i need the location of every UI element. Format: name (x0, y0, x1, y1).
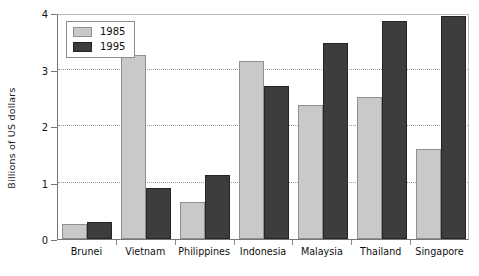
y-axis-tick-label: 0 (22, 235, 48, 246)
x-axis-category-label-singapore: Singapore (415, 246, 463, 257)
x-axis-tick-mark (116, 240, 117, 245)
bar-malaysia-1985 (298, 105, 323, 239)
y-axis-tick-label: 2 (22, 122, 48, 133)
bar-malaysia-1995 (323, 43, 348, 239)
x-axis-category-label-indonesia: Indonesia (240, 246, 286, 257)
bar-group (176, 15, 235, 239)
dark-gray-swatch (73, 42, 92, 52)
bar-indonesia-1985 (239, 61, 264, 239)
x-axis-tick-mark (351, 240, 352, 245)
bar-vietnam-1995 (146, 188, 171, 239)
bar-group (293, 15, 352, 239)
y-axis-tick-label: 4 (22, 9, 48, 20)
bar-indonesia-1995 (264, 86, 289, 239)
y-axis-title: Billions of US dollars (0, 0, 22, 276)
x-axis-tick-mark (175, 240, 176, 245)
bar-group (235, 15, 294, 239)
x-axis-tick-mark (234, 240, 235, 245)
bar-philippines-1995 (205, 175, 230, 239)
chart-legend: 19851995 (66, 21, 135, 58)
bar-thailand-1995 (382, 21, 407, 239)
bar-brunei-1995 (87, 222, 112, 239)
y-axis-tick-label: 1 (22, 178, 48, 189)
legend-entry-1995: 1995 (73, 42, 125, 52)
legend-label: 1995 (100, 42, 125, 52)
x-axis-category-label-philippines: Philippines (178, 246, 230, 257)
x-axis-category-label-brunei: Brunei (71, 246, 102, 257)
bar-philippines-1985 (180, 202, 205, 239)
x-axis-category-labels: BruneiVietnamPhilippinesIndonesiaMalaysi… (57, 246, 469, 266)
legend-entry-1985: 1985 (73, 27, 125, 37)
bar-thailand-1985 (357, 97, 382, 239)
bar-singapore-1985 (416, 149, 441, 239)
bar-chart-figure: Billions of US dollars 01234 BruneiVietn… (0, 0, 479, 276)
bar-singapore-1995 (441, 16, 466, 239)
x-axis-category-label-vietnam: Vietnam (125, 246, 165, 257)
bar-group (352, 15, 411, 239)
x-axis-category-label-malaysia: Malaysia (301, 246, 343, 257)
y-axis-tick-label: 3 (22, 65, 48, 76)
x-axis-tick-mark (292, 240, 293, 245)
bar-brunei-1985 (62, 224, 87, 239)
x-axis-tick-mark (410, 240, 411, 245)
light-gray-swatch (73, 27, 92, 37)
bar-vietnam-1985 (121, 55, 146, 239)
legend-label: 1985 (100, 27, 125, 37)
x-axis-category-label-thailand: Thailand (360, 246, 401, 257)
bar-group (411, 15, 470, 239)
